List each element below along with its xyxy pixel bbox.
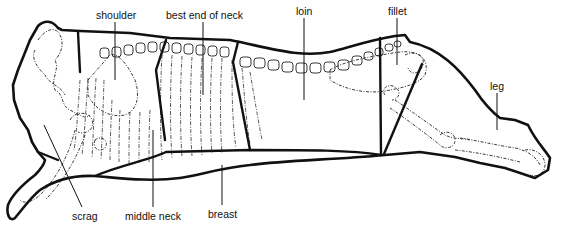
label-fillet-text: fillet [388, 5, 407, 17]
leader-scrag [44, 125, 82, 207]
label-best-end-of-neck-text: best end of neck [166, 9, 244, 21]
label-middle-neck: middle neck [125, 130, 182, 222]
lamb-cuts-diagram: shoulder best end of neck loin fillet le… [0, 0, 563, 227]
label-shoulder: shoulder [96, 9, 137, 80]
label-loin-text: loin [296, 5, 313, 17]
label-middle-neck-text: middle neck [125, 210, 182, 222]
label-breast-text: breast [208, 208, 237, 220]
label-scrag-text: scrag [72, 210, 98, 222]
label-scrag: scrag [44, 125, 98, 222]
carcass-outline [7, 22, 550, 219]
label-breast: breast [208, 165, 237, 220]
label-leg: leg [490, 80, 504, 130]
label-leg-text: leg [490, 80, 504, 92]
spine-vertebrae [34, 30, 401, 118]
shoulder-bones [20, 55, 138, 202]
label-shoulder-text: shoulder [96, 9, 137, 21]
